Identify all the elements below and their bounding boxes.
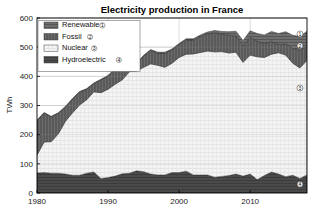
legend-swatch-renewable (44, 22, 58, 29)
legend-swatch-fossil (44, 34, 58, 41)
y-tick-label: 400 (20, 72, 34, 81)
callout-number-3: 3 (299, 85, 302, 91)
legend-label-hydroelectric: Hydroelectric (62, 55, 106, 64)
legend-label-fossil: Fossil (62, 32, 82, 41)
electricity-production-area-chart: Electricity production in France 0100200… (0, 0, 325, 222)
y-tick-label: 100 (20, 160, 34, 169)
legend-swatch-nuclear (44, 45, 58, 52)
legend-marker-number: 2 (89, 34, 92, 40)
y-axis-label: TWh (5, 97, 14, 114)
legend-swatch-hydroelectric (44, 57, 58, 64)
callout-number-2: 2 (299, 43, 302, 49)
x-tick-label: 1980 (28, 197, 46, 206)
y-tick-label: 500 (20, 43, 34, 52)
legend-label-renewable: Renewable (62, 20, 100, 29)
chart-legend: Renewable1Fossil2Nuclear3Hydroelectric4 (38, 20, 140, 72)
callout-number-4: 4 (299, 181, 302, 187)
legend-marker-number: 3 (93, 45, 96, 51)
y-tick-label: 200 (20, 130, 34, 139)
legend-marker-number: 1 (101, 22, 104, 28)
x-tick-label: 2010 (241, 197, 259, 206)
legend-marker-number: 4 (117, 57, 120, 63)
chart-title: Electricity production in France (101, 4, 244, 15)
callout-number-1: 1 (299, 31, 302, 37)
y-tick-label: 300 (20, 101, 34, 110)
x-tick-label: 1990 (99, 197, 117, 206)
y-tick-label: 600 (20, 14, 34, 23)
x-tick-label: 2000 (170, 197, 188, 206)
chart-container: Electricity production in France 0100200… (0, 0, 325, 222)
legend-label-nuclear: Nuclear (62, 43, 88, 52)
